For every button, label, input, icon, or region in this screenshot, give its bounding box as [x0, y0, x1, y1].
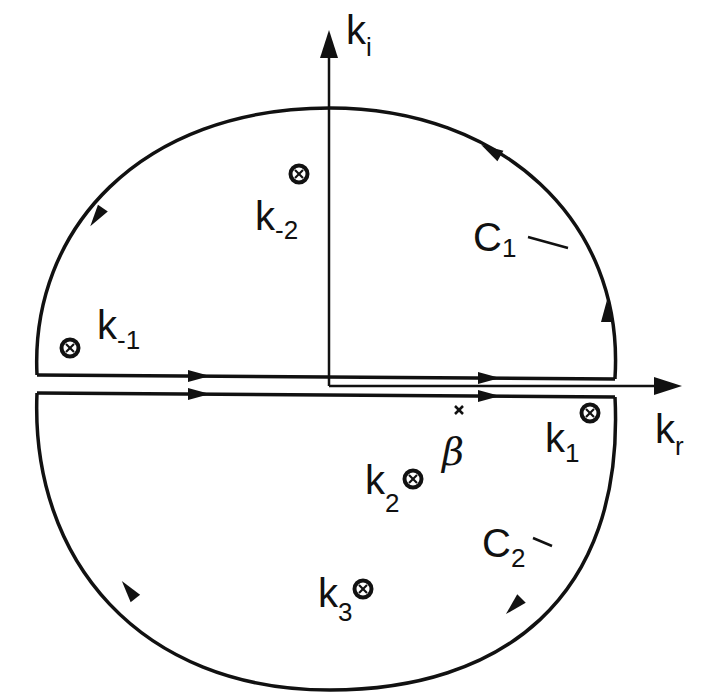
svg-text:k-1: k-1	[97, 303, 140, 355]
svg-text:k1: k1	[545, 416, 579, 468]
axis-arrow-right-icon	[654, 377, 682, 395]
imaginary-axis	[320, 30, 338, 381]
pole-k1: k1	[545, 405, 599, 469]
svg-text:β: β	[440, 430, 464, 474]
svg-text:k2: k2	[365, 458, 399, 518]
svg-text:k-2: k-2	[255, 194, 298, 245]
contour-c2	[37, 388, 616, 690]
contour-c2-label: C2	[482, 521, 552, 573]
circled-cross-icon	[405, 471, 422, 488]
pole-k-minus-1: k-1	[62, 303, 141, 357]
contour-c1-label: C1	[473, 215, 568, 263]
x-mark-icon	[455, 406, 463, 414]
flow-arrow-icon	[478, 390, 500, 402]
contour-diagram: ki kr C1 C2 k-2 k-1 k1 k2 k3 β	[0, 0, 719, 692]
flow-arrow-icon	[478, 372, 500, 384]
flow-arrow-icon	[117, 577, 140, 602]
imaginary-axis-label: ki	[346, 8, 372, 62]
flow-arrow-icon	[188, 388, 210, 400]
svg-text:C1: C1	[473, 215, 516, 263]
pole-k-minus-2: k-2	[255, 166, 308, 246]
pole-k3: k3	[318, 571, 372, 627]
pole-k2: k2	[365, 458, 422, 518]
flow-arrow-icon	[502, 594, 526, 618]
point-beta: β	[440, 406, 464, 474]
circled-cross-icon	[291, 166, 308, 183]
real-axis-label: kr	[655, 407, 684, 461]
circled-cross-icon	[355, 581, 372, 598]
flow-arrow-icon	[188, 370, 210, 382]
axis-arrow-up-icon	[320, 30, 338, 58]
circled-cross-icon	[582, 405, 599, 422]
circled-cross-icon	[62, 340, 79, 357]
svg-text:k3: k3	[318, 571, 352, 627]
svg-text:C2: C2	[482, 521, 525, 573]
